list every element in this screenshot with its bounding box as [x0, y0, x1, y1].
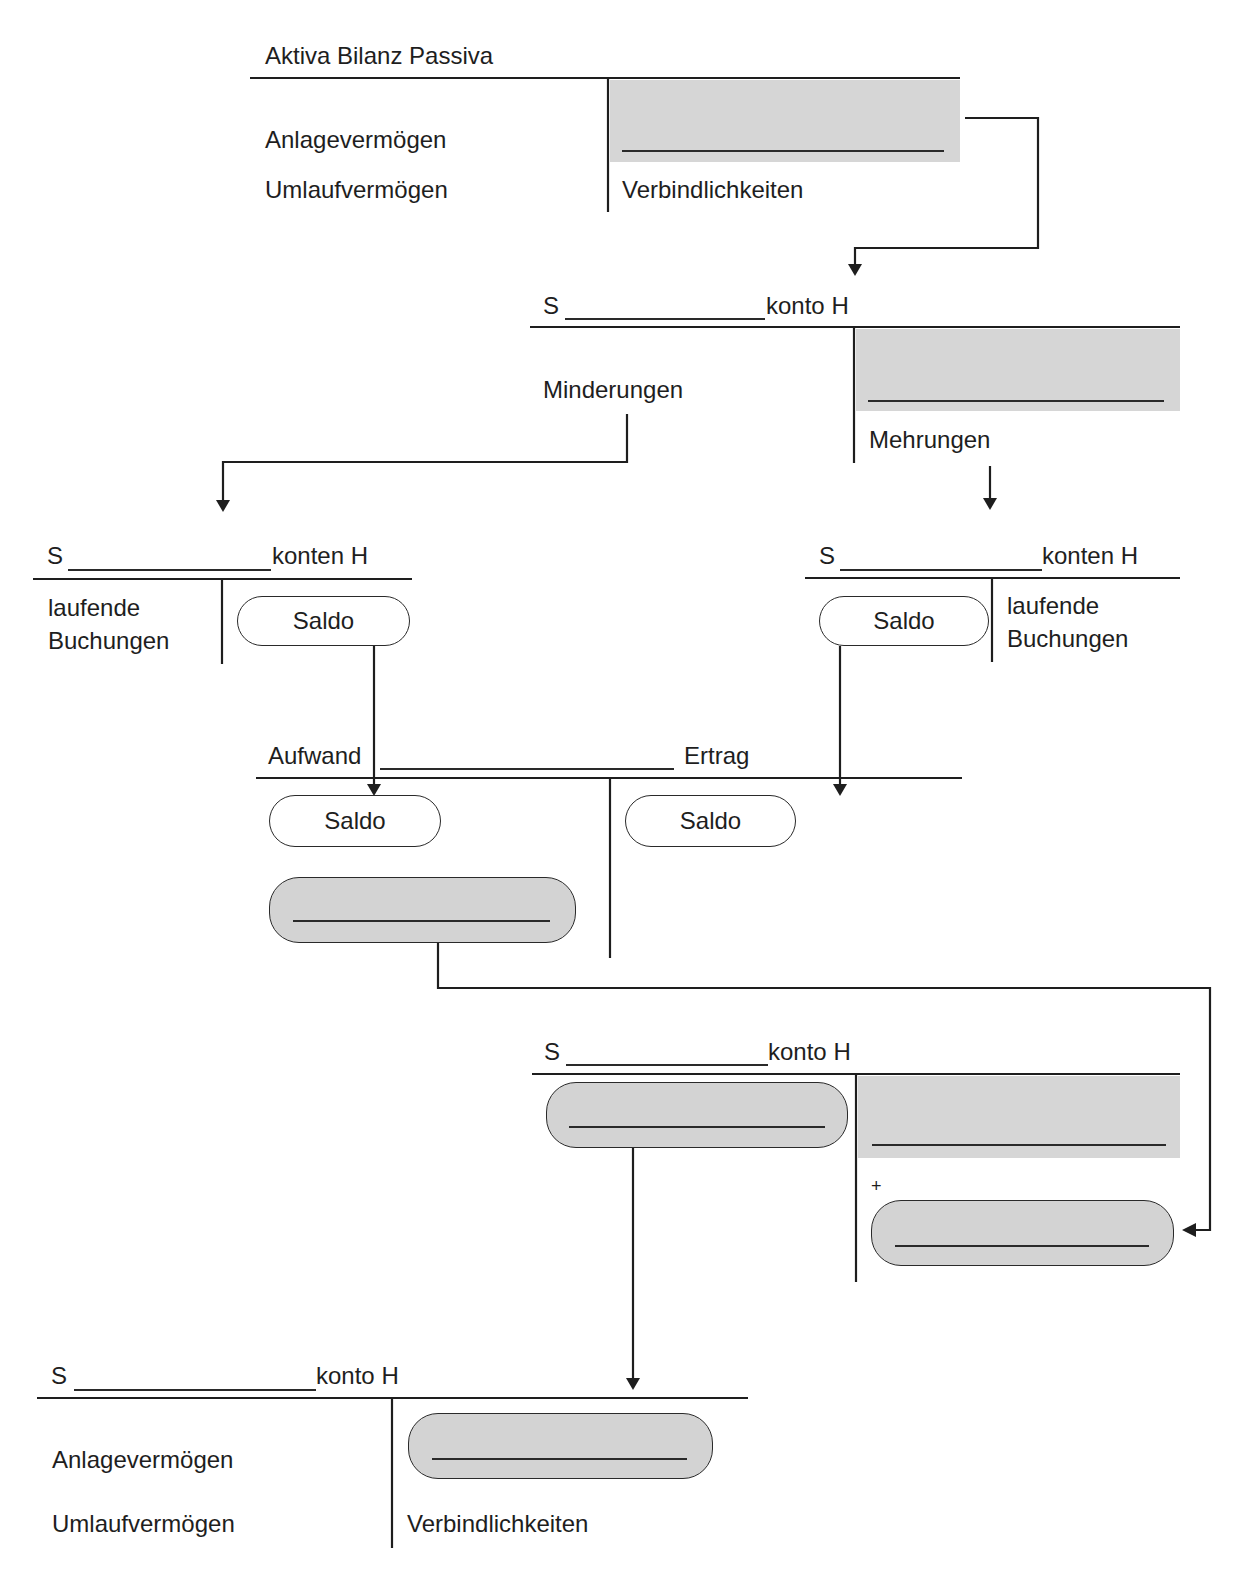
bilanz-bottom-right-item: Verbindlichkeiten	[407, 1510, 588, 1538]
bilanz-bottom-left-item: Anlagevermögen	[52, 1446, 233, 1474]
konto2-s-label: S	[544, 1038, 560, 1066]
konto-left-suffix: konten H	[272, 542, 368, 570]
guv-right-header: Ertrag	[684, 742, 749, 770]
bilanz-bottom-field[interactable]	[408, 1413, 713, 1479]
konto2-right-blank-line	[895, 1245, 1149, 1247]
bilanz-blank-line	[622, 150, 944, 152]
bilanz-right-item: Verbindlichkeiten	[622, 176, 803, 204]
guv-result-field[interactable]	[269, 877, 576, 943]
diagram-lines	[0, 0, 1240, 1582]
konto-right-name-blank[interactable]	[840, 569, 1042, 571]
konto1-left-label: Minderungen	[543, 376, 683, 404]
konto1-shaded-field[interactable]	[856, 329, 1180, 411]
konto-right-label-line1: laufende	[1007, 592, 1099, 620]
konto1-right-label: Mehrungen	[869, 426, 990, 454]
konto-left-label-line1: laufende	[48, 594, 140, 622]
bilanz-bottom-s-label: S	[51, 1362, 67, 1390]
guv-result-blank-line	[293, 920, 550, 922]
guv-right-saldo: Saldo	[625, 795, 796, 847]
konto-right-saldo: Saldo	[819, 596, 989, 646]
bilanz-bottom-left-item: Umlaufvermögen	[52, 1510, 235, 1538]
guv-left-header: Aufwand	[268, 742, 361, 770]
konto-right-label-line2: Buchungen	[1007, 625, 1128, 653]
konto1-name-blank[interactable]	[565, 318, 765, 320]
konto2-right-field[interactable]	[871, 1200, 1174, 1266]
konto2-left-blank-line	[569, 1126, 825, 1128]
konto2-suffix: konto H	[768, 1038, 851, 1066]
konto2-left-field[interactable]	[546, 1082, 848, 1148]
konto2-plus-sign: +	[871, 1172, 882, 1200]
bilanz-left-item: Umlaufvermögen	[265, 176, 448, 204]
bilanz-bottom-suffix: konto H	[316, 1362, 399, 1390]
konto1-blank-line	[868, 400, 1164, 402]
guv-left-saldo: Saldo	[269, 795, 441, 847]
bilanz-left-item: Anlagevermögen	[265, 126, 446, 154]
konto-left-label-line2: Buchungen	[48, 627, 169, 655]
konto2-blank-line	[872, 1144, 1166, 1146]
guv-name-blank[interactable]	[380, 768, 674, 770]
konto-right-suffix: konten H	[1042, 542, 1138, 570]
bilanz-bottom-blank-line	[432, 1458, 687, 1460]
konto-left-saldo: Saldo	[237, 596, 410, 646]
konto1-suffix: konto H	[766, 292, 849, 320]
konto-left-name-blank[interactable]	[68, 569, 271, 571]
konto2-name-blank[interactable]	[566, 1064, 768, 1066]
konto1-s-label: S	[543, 292, 559, 320]
bilanz-title: Aktiva Bilanz Passiva	[265, 42, 493, 70]
bilanz-bottom-name-blank[interactable]	[74, 1389, 316, 1391]
konto-left-s-label: S	[47, 542, 63, 570]
konto-right-s-label: S	[819, 542, 835, 570]
